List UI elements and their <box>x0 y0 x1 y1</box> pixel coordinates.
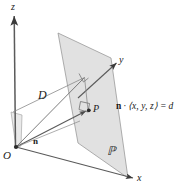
plane-label: ℙ <box>107 145 115 157</box>
plane-equation: n·⟨x, y, z⟩=d <box>116 102 173 112</box>
normal-vector-label-n: n <box>33 137 38 146</box>
origin-dot <box>14 145 18 149</box>
distance-label-D: D <box>38 89 47 101</box>
diagram-canvas <box>0 0 177 195</box>
origin-wedge <box>11 112 22 147</box>
construction-ray-lower <box>16 121 80 147</box>
plane-distance-diagram: z y x O D P n ℙ n·⟨x, y, z⟩=d <box>0 0 177 195</box>
origin-label: O <box>3 150 11 161</box>
equation-vector: ⟨x, y, z⟩ <box>128 101 158 111</box>
point-label-P: P <box>93 104 99 114</box>
equation-normal: n <box>116 101 121 111</box>
y-axis-label: y <box>119 55 123 65</box>
equation-value: d <box>168 101 173 111</box>
z-axis-label: z <box>11 2 15 12</box>
equation-dot: · <box>123 101 125 111</box>
x-axis-label: x <box>137 173 141 183</box>
equation-equals: = <box>160 101 167 111</box>
point-P-dot <box>87 108 91 112</box>
